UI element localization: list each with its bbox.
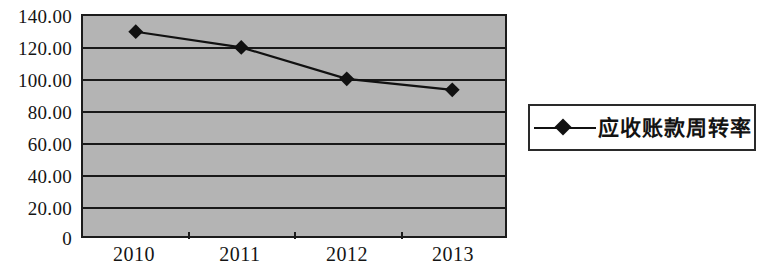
x-axis-tick-label: 2012 (294, 241, 400, 267)
x-axis-labels: 2010 2011 2012 2013 (81, 241, 507, 269)
data-point-marker (445, 82, 460, 97)
y-axis-tick-label: 120.00 (18, 39, 72, 58)
series-line (136, 32, 453, 90)
chart-legend: 应收账款周转率 (528, 104, 756, 151)
x-axis-tick-mark (188, 232, 190, 239)
y-axis-tick-label: 40.00 (28, 167, 72, 186)
legend-entry: 应收账款周转率 (534, 116, 750, 140)
y-axis-tick-label: 80.00 (28, 103, 72, 122)
y-axis-tick-label: 60.00 (28, 135, 72, 154)
legend-label: 应收账款周转率 (598, 116, 752, 140)
y-axis-tick-label: 100.00 (18, 71, 72, 90)
data-point-marker (234, 40, 249, 55)
diamond-marker-icon (555, 118, 572, 135)
y-axis-labels: 140.00 120.00 100.00 80.00 60.00 40.00 2… (0, 0, 76, 271)
x-axis-tick-label: 2010 (81, 241, 187, 267)
plot-area (81, 14, 507, 238)
data-point-marker (128, 24, 143, 39)
legend-swatch (534, 118, 596, 138)
data-point-marker (339, 71, 354, 86)
x-axis-tick-label: 2011 (187, 241, 293, 267)
x-axis-tick-label: 2013 (400, 241, 506, 267)
x-axis-tick-mark (401, 232, 403, 239)
y-axis-tick-label: 140.00 (18, 7, 72, 26)
data-series-layer (83, 16, 505, 236)
y-axis-tick-label: 0 (62, 229, 72, 248)
x-axis-tick-mark (294, 232, 296, 239)
line-chart-figure: 140.00 120.00 100.00 80.00 60.00 40.00 2… (0, 0, 762, 271)
y-axis-tick-label: 20.00 (28, 199, 72, 218)
